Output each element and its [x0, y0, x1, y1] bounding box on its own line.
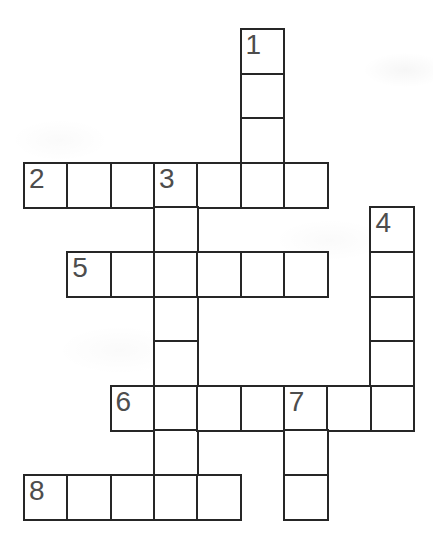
- crossword-cell-numbered-7[interactable]: 7: [283, 385, 329, 432]
- crossword-cell-numbered-6[interactable]: 6: [110, 385, 156, 432]
- clue-number: 8: [25, 476, 67, 505]
- crossword-cell[interactable]: [369, 296, 415, 343]
- clue-number: 4: [371, 208, 413, 237]
- crossword-cell-numbered-4[interactable]: 4: [369, 206, 415, 253]
- crossword-cell[interactable]: [240, 162, 286, 209]
- crossword-cell[interactable]: [66, 474, 112, 521]
- crossword-cell[interactable]: [240, 117, 286, 164]
- crossword-cell-numbered-2[interactable]: 2: [23, 162, 69, 209]
- crossword-cell[interactable]: [110, 162, 156, 209]
- crossword-cell[interactable]: [326, 385, 372, 432]
- crossword-cell-numbered-3[interactable]: 3: [153, 162, 199, 209]
- crossword-cell[interactable]: [240, 251, 286, 298]
- clue-number: 6: [112, 387, 154, 416]
- crossword-cell[interactable]: [283, 162, 329, 209]
- crossword-cell[interactable]: [153, 251, 199, 298]
- crossword-cell[interactable]: [196, 474, 242, 521]
- crossword-cell[interactable]: [196, 385, 242, 432]
- crossword-cell[interactable]: [153, 206, 199, 253]
- crossword-cell[interactable]: [66, 162, 112, 209]
- crossword-cell[interactable]: [240, 385, 286, 432]
- crossword-cell[interactable]: [283, 251, 329, 298]
- crossword-cell[interactable]: [283, 429, 329, 476]
- crossword-cell[interactable]: [153, 474, 199, 521]
- crossword-cell[interactable]: [110, 251, 156, 298]
- crossword-cell[interactable]: [196, 162, 242, 209]
- clue-number: 1: [242, 30, 284, 59]
- clue-number: 5: [68, 253, 110, 282]
- crossword-cell[interactable]: [153, 429, 199, 476]
- crossword-cell[interactable]: [369, 251, 415, 298]
- crossword-cell[interactable]: [369, 340, 415, 387]
- crossword-cell[interactable]: [283, 474, 329, 521]
- crossword-cell[interactable]: [153, 296, 199, 343]
- clue-number: 2: [25, 164, 67, 193]
- crossword-cell-numbered-8[interactable]: 8: [23, 474, 69, 521]
- crossword-cell-numbered-1[interactable]: 1: [240, 28, 286, 75]
- crossword-cell[interactable]: [153, 340, 199, 387]
- crossword-cell[interactable]: [196, 251, 242, 298]
- crossword-cell[interactable]: [369, 385, 415, 432]
- crossword-cell[interactable]: [110, 474, 156, 521]
- clue-number: 3: [155, 164, 197, 193]
- crossword-cell[interactable]: [153, 385, 199, 432]
- crossword-cell-numbered-5[interactable]: 5: [66, 251, 112, 298]
- crossword-cell[interactable]: [240, 73, 286, 120]
- crossword-worksheet-page: 12345678: [0, 0, 433, 543]
- crossword-grid: 12345678: [0, 0, 433, 543]
- clue-number: 7: [285, 387, 327, 416]
